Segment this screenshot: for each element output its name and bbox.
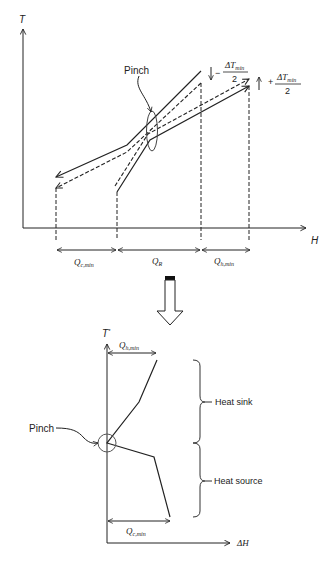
- pinch-pointer-arrow: [138, 76, 151, 112]
- shift-up-numerator: ΔTmin: [276, 72, 296, 83]
- cold-composite-curve: [117, 86, 249, 192]
- pinch-ellipse: [147, 111, 158, 151]
- heat-sink-label: Heat sink: [215, 397, 253, 407]
- pinch-analysis-figure: T H Pinch − ΔTmin 2 + ΔTmin 2 Qc: [0, 0, 334, 563]
- cold-shifted-curve: [115, 79, 249, 186]
- transition-down-arrow: [157, 276, 183, 325]
- shift-up-sign: +: [268, 77, 273, 87]
- grand-composite-curve: [107, 360, 170, 517]
- heat-source-label: Heat source: [214, 476, 263, 486]
- delta-h-axis-label: ΔH: [236, 538, 249, 548]
- span-qhmin-label: Qh,min: [214, 256, 234, 267]
- span-qr-label: QR: [152, 256, 163, 267]
- span-qcmin-label: Qc,min: [74, 257, 94, 268]
- top-diagram: T H Pinch − ΔTmin 2 + ΔTmin 2 Qc: [19, 14, 319, 268]
- heat-source-bracket: [193, 443, 205, 517]
- pinch-label: Pinch: [124, 65, 149, 76]
- heat-sink-bracket: [193, 360, 205, 443]
- pinch-pointer-arrow-bottom: [56, 428, 98, 443]
- shift-down-denominator: 2: [232, 74, 237, 84]
- t-star-axis-label: T*: [102, 328, 111, 339]
- bottom-diagram: T* ΔH Qh,min Qc,min Pinch Heat sink Heat…: [29, 328, 263, 548]
- span-qhmin-label-bottom: Qh,min: [119, 340, 139, 351]
- span-qcmin-label-bottom: Qc,min: [126, 526, 146, 537]
- h-axis-label: H: [311, 235, 319, 246]
- shift-down-numerator: ΔTmin: [224, 60, 244, 71]
- shift-up-denominator: 2: [285, 86, 290, 96]
- pinch-label-bottom: Pinch: [29, 423, 54, 434]
- shift-down-sign: −: [215, 68, 220, 78]
- t-axis-label: T: [19, 14, 26, 25]
- hot-shifted-curve: [56, 83, 201, 188]
